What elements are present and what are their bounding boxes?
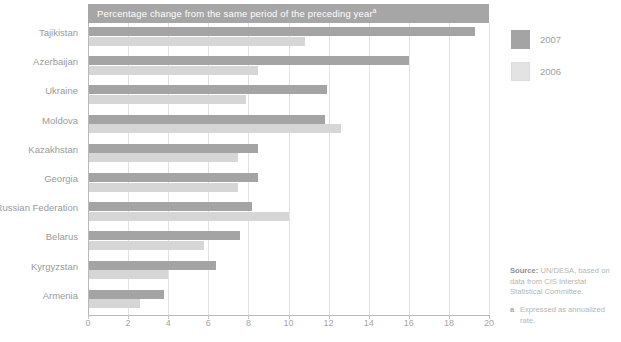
footnote: a Expressed as annualized rate. (510, 305, 620, 326)
y-axis-line (88, 23, 89, 315)
bar-2007 (88, 144, 258, 153)
x-axis-tick-labels: 02468101214161820 (0, 318, 505, 338)
x-tick-mark (289, 315, 290, 319)
x-tick-mark (449, 315, 450, 319)
chart-title-superscript: a (373, 7, 377, 14)
source-label: Source: (510, 266, 538, 275)
bar-row (88, 111, 489, 140)
bar-2006 (88, 299, 140, 308)
bar-row (88, 169, 489, 198)
chart-title-text: Percentage change from the same period o… (97, 9, 373, 20)
category-label: Kyrgyzstan (0, 261, 78, 272)
bar-2006 (88, 95, 246, 104)
bar-chart: Percentage change from the same period o… (0, 0, 505, 342)
category-label: Moldova (0, 115, 78, 126)
x-tick-label: 18 (444, 318, 454, 328)
x-tick-label: 6 (206, 318, 211, 328)
x-tick-mark (329, 315, 330, 319)
plot-area (88, 23, 489, 315)
bar-row (88, 286, 489, 315)
x-tick-label: 10 (283, 318, 293, 328)
bar-2006 (88, 153, 238, 162)
bar-row (88, 140, 489, 169)
bar-2006 (88, 212, 289, 221)
chart-title: Percentage change from the same period o… (88, 7, 376, 19)
bar-2007 (88, 231, 240, 240)
bar-row (88, 52, 489, 81)
bar-2007 (88, 202, 252, 211)
x-tick-label: 4 (166, 318, 171, 328)
bar-row (88, 227, 489, 256)
bar-rows (88, 23, 489, 315)
bar-2007 (88, 115, 325, 124)
chart-title-banner: Percentage change from the same period o… (88, 4, 489, 23)
x-tick-label: 2 (126, 318, 131, 328)
bar-2006 (88, 124, 341, 133)
legend-swatch-icon-2006 (511, 62, 530, 81)
x-tick-mark (248, 315, 249, 319)
category-label: Russian Federation (0, 202, 78, 213)
x-tick-label: 14 (364, 318, 374, 328)
x-tick-label: 8 (246, 318, 251, 328)
bar-2006 (88, 66, 258, 75)
category-label: Tajikistan (0, 27, 78, 38)
bar-row (88, 257, 489, 286)
x-tick-mark (88, 315, 89, 319)
legend-item-2007: 2007 (511, 30, 561, 49)
x-tick-mark (208, 315, 209, 319)
bar-2007 (88, 173, 258, 182)
bar-2006 (88, 183, 238, 192)
bar-row (88, 23, 489, 52)
bar-2006 (88, 270, 168, 279)
bar-2007 (88, 27, 475, 36)
bar-2006 (88, 241, 204, 250)
category-axis-labels: TajikistanAzerbaijanUkraineMoldovaKazakh… (0, 23, 84, 315)
bar-2007 (88, 56, 409, 65)
x-tick-mark (489, 315, 490, 319)
category-label: Armenia (0, 290, 78, 301)
category-label: Azerbaijan (0, 56, 78, 67)
x-tick-label: 0 (85, 318, 90, 328)
category-label: Belarus (0, 231, 78, 242)
bar-row (88, 198, 489, 227)
bar-2007 (88, 261, 216, 270)
bar-2007 (88, 290, 164, 299)
bar-2006 (88, 37, 305, 46)
x-tick-mark (409, 315, 410, 319)
footnote-marker: a (510, 305, 520, 326)
x-tick-mark (128, 315, 129, 319)
x-tick-mark (168, 315, 169, 319)
gridline (489, 23, 490, 315)
bar-2007 (88, 85, 327, 94)
bar-row (88, 81, 489, 110)
category-label: Georgia (0, 173, 78, 184)
x-tick-mark (369, 315, 370, 319)
legend-label-2006: 2006 (540, 66, 561, 77)
x-tick-label: 16 (404, 318, 414, 328)
category-label: Kazakhstan (0, 144, 78, 155)
source-note: Source: UN/DESA, based on data from CIS … (510, 266, 618, 298)
legend-swatch-icon-2007 (511, 30, 530, 49)
x-tick-label: 20 (484, 318, 494, 328)
x-tick-label: 12 (324, 318, 334, 328)
legend-label-2007: 2007 (540, 34, 561, 45)
legend-item-2006: 2006 (511, 62, 561, 81)
chart-page: Percentage change from the same period o… (0, 0, 621, 342)
chart-legend: 2007 2006 (511, 30, 561, 94)
category-label: Ukraine (0, 85, 78, 96)
footnote-text: Expressed as annualized rate. (520, 305, 620, 326)
